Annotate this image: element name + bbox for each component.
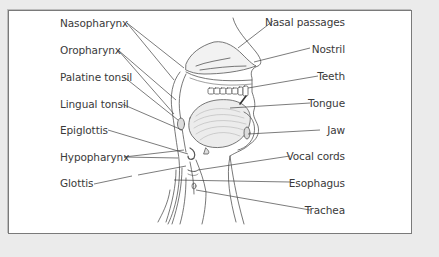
label-epiglottis: Epiglottis — [60, 124, 108, 136]
leader-nasopharynx — [127, 23, 184, 80]
leader-nostril — [254, 48, 310, 62]
label-trachea: Trachea — [305, 204, 345, 216]
leader-esophagus — [174, 180, 290, 182]
label-jaw: Jaw — [327, 124, 345, 136]
leader-palatine-tonsil — [124, 77, 178, 120]
epiglottis-shape — [188, 148, 195, 159]
teeth — [208, 86, 248, 96]
leader-teeth — [248, 76, 318, 88]
label-tongue: Tongue — [308, 97, 345, 109]
label-hypopharynx: Hypopharynx — [60, 151, 129, 163]
label-palatine-tonsil: Palatine tonsil — [60, 71, 132, 83]
nasal-cavity — [186, 42, 256, 74]
label-vocal-cords: Vocal cords — [286, 150, 345, 162]
leader-vocal-cords — [198, 156, 290, 170]
label-nasal-passages: Nasal passages — [265, 16, 345, 28]
esophagus-tube — [166, 170, 176, 222]
leader-hypopharynx — [124, 150, 184, 158]
label-teeth: Teeth — [317, 70, 345, 82]
label-oropharynx: Oropharynx — [60, 44, 121, 56]
label-nostril: Nostril — [312, 43, 345, 55]
neck-front — [230, 156, 244, 224]
leader-glottis — [94, 166, 186, 184]
label-esophagus: Esophagus — [289, 177, 345, 189]
vocal-cords-shape — [188, 170, 198, 172]
label-lingual-tonsil: Lingual tonsil — [60, 98, 129, 110]
label-nasopharynx: Nasopharynx — [60, 17, 128, 29]
label-glottis: Glottis — [60, 177, 93, 189]
tongue-shape — [189, 100, 251, 148]
leader-trachea — [196, 190, 310, 210]
